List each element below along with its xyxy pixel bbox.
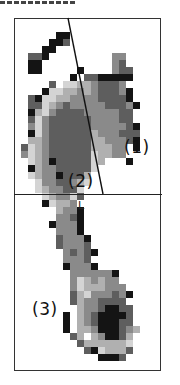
region-2-label: (2) (68, 173, 94, 190)
region-3-label: (3) (32, 301, 58, 318)
region-1-label: (1) (124, 139, 150, 156)
forefoot-rearfoot-divider-line (14, 194, 162, 195)
left-foot-marker: L (78, 200, 84, 211)
cropped-caption-text (0, 0, 75, 5)
